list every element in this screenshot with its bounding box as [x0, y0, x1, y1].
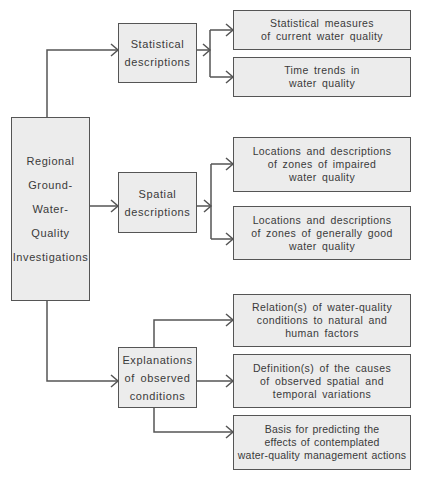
outcome-line: water quality — [289, 171, 355, 184]
outcome-box-statistical-measures: Statistical measures of current water qu… — [233, 10, 411, 50]
root-line: Ground- — [28, 173, 73, 197]
category-line: Statistical — [131, 35, 185, 53]
outcome-line: of zones of generally good — [251, 227, 393, 240]
outcome-line: human factors — [285, 327, 359, 340]
category-box-explanations-of-observed-conditions: Explanations of observed conditions — [118, 347, 197, 408]
outcome-line: water-quality management actions — [238, 449, 406, 462]
outcome-line: Statistical measures — [270, 17, 374, 30]
outcome-line: water quality — [289, 240, 355, 253]
outcome-box-time-trends: Time trends in water quality — [233, 57, 411, 97]
outcome-line: Basis for predicting the — [265, 423, 380, 436]
outcome-box-zones-generally-good: Locations and descriptions of zones of g… — [233, 206, 411, 260]
outcome-line: Locations and descriptions — [253, 214, 392, 227]
root-box-regional-groundwater-quality-investigations: Regional Ground- Water- Quality Investig… — [11, 117, 90, 301]
root-line: Water- — [32, 197, 68, 221]
outcome-line: Locations and descriptions — [253, 145, 392, 158]
category-line: conditions — [130, 387, 186, 405]
category-line: Explanations — [122, 351, 192, 369]
outcome-line: Definition(s) of the causes — [253, 362, 391, 375]
category-line: descriptions — [125, 53, 191, 71]
root-line: Regional — [26, 149, 74, 173]
outcome-line: Time trends in — [284, 64, 360, 77]
root-line: Quality — [31, 221, 69, 245]
outcome-box-zones-impaired: Locations and descriptions of zones of i… — [233, 137, 411, 192]
category-box-statistical-descriptions: Statistical descriptions — [118, 23, 197, 83]
outcome-line: of current water quality — [261, 30, 383, 43]
outcome-line: water quality — [289, 77, 355, 90]
category-line: Spatial — [139, 185, 177, 203]
category-line: of observed — [124, 369, 190, 387]
outcome-line: effects of contemplated — [265, 436, 380, 449]
outcome-box-basis-for-predicting: Basis for predicting the effects of cont… — [233, 415, 411, 470]
outcome-line: Relation(s) of water-quality — [252, 301, 392, 314]
category-box-spatial-descriptions: Spatial descriptions — [118, 172, 197, 233]
outcome-line: temporal variations — [273, 388, 371, 401]
outcome-box-definitions-of-causes: Definition(s) of the causes of observed … — [233, 354, 411, 408]
outcome-line: of zones of impaired — [268, 158, 377, 171]
outcome-line: of observed spatial and — [260, 375, 384, 388]
outcome-line: conditions to natural and — [257, 314, 387, 327]
root-line: Investigations — [13, 245, 89, 269]
category-line: descriptions — [125, 203, 191, 221]
outcome-box-relations-to-factors: Relation(s) of water-quality conditions … — [233, 294, 411, 347]
